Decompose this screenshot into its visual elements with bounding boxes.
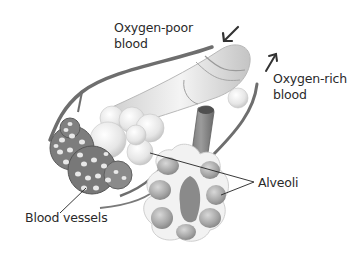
alveolar-sac-cutaway xyxy=(144,144,229,241)
oxygen-rich-line2: blood xyxy=(273,87,347,103)
oxygen-rich-label: Oxygen-rich blood xyxy=(273,71,347,103)
oxygen-rich-arrow-icon xyxy=(266,54,277,71)
oxygen-poor-line2: blood xyxy=(114,36,193,52)
blood-vessels-label: Blood vessels xyxy=(25,210,107,226)
oxygen-rich-line1: Oxygen-rich xyxy=(273,71,347,87)
oxygen-poor-line1: Oxygen-poor xyxy=(114,20,193,36)
alveoli-label: Alveoli xyxy=(258,175,298,191)
oxygen-poor-arrow-icon xyxy=(223,27,238,41)
oxygen-poor-label: Oxygen-poor blood xyxy=(114,20,193,52)
